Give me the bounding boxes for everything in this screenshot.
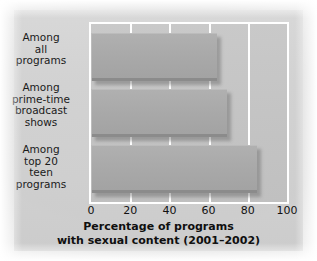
- category-label-line: programs: [0, 55, 84, 67]
- x-axis-title-line: Percentage of programs: [0, 220, 317, 234]
- category-label-line: teen: [0, 167, 84, 179]
- category-label-line: programs: [0, 179, 84, 191]
- category-label-line: shows: [0, 117, 84, 129]
- bar-among-all-programs[interactable]: [91, 33, 217, 81]
- category-label-line: Among: [0, 32, 84, 44]
- chart-figure: Among all programs Among prime-time broa…: [0, 0, 317, 261]
- category-label-among-prime-time-broadcast-shows: Among prime-time broadcast shows: [0, 82, 84, 128]
- category-label-among-top-20-teen-programs: Among top 20 teen programs: [0, 144, 84, 190]
- category-label-line: Among: [0, 144, 84, 156]
- xtick-label-100: 100: [270, 204, 304, 217]
- xtick-label-20: 20: [113, 204, 147, 217]
- x-axis-title: Percentage of programs with sexual conte…: [0, 220, 317, 248]
- plot-area: [89, 22, 289, 204]
- category-label-among-all-programs: Among all programs: [0, 32, 84, 67]
- bar-among-prime-time-broadcast-shows[interactable]: [91, 89, 227, 137]
- xtick-label-40: 40: [152, 204, 186, 217]
- category-label-line: broadcast: [0, 105, 84, 117]
- category-label-line: Among: [0, 82, 84, 94]
- bar-among-top-20-teen-programs[interactable]: [91, 145, 257, 193]
- xtick-label-0: 0: [74, 204, 108, 217]
- x-axis-title-line: with sexual content (2001–2002): [0, 234, 317, 248]
- xtick-label-80: 80: [231, 204, 265, 217]
- xtick-label-60: 60: [192, 204, 226, 217]
